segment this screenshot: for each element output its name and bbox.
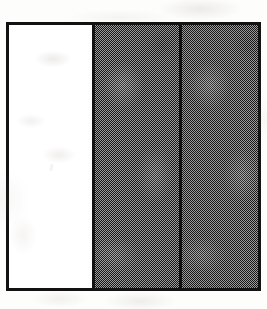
figure-frame [6,22,261,291]
panel-middle-shaded [95,25,179,288]
panel-right-shaded [182,25,258,288]
panel-left-white [9,25,92,288]
scanned-figure-page [0,0,267,309]
